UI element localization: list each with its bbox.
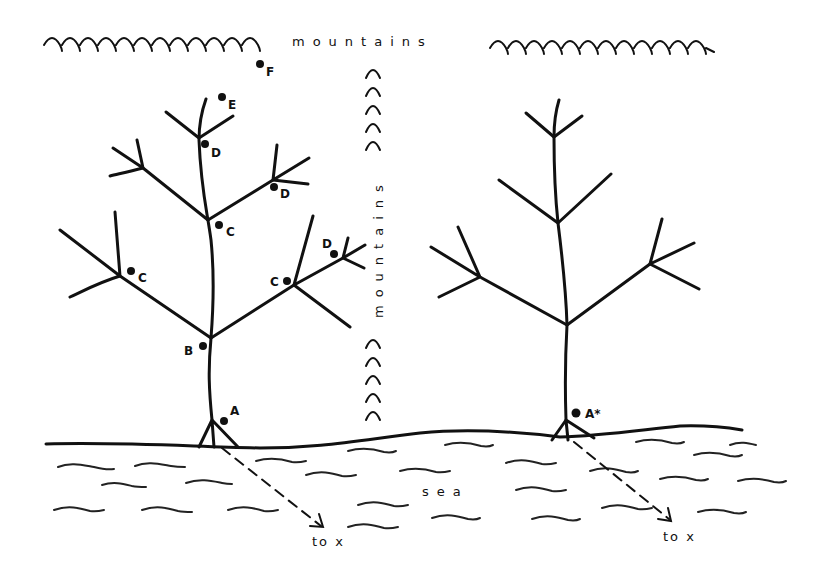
to-x-right-label: to x <box>663 529 696 544</box>
coastline <box>46 426 742 448</box>
label-e: E <box>228 98 236 112</box>
right-arrow-to-x <box>574 442 671 521</box>
point-a <box>220 417 228 425</box>
to-x-left-label: to x <box>312 534 345 549</box>
mountain-range-top-left <box>44 38 260 51</box>
point-c-left <box>127 267 135 275</box>
point-d-mid <box>270 183 278 191</box>
left-arrow-to-x <box>222 448 323 527</box>
mountain-range-top-right <box>490 41 714 54</box>
sea-waves <box>54 440 786 529</box>
point-c-right <box>283 277 291 285</box>
point-b <box>199 342 207 350</box>
label-d-top: D <box>211 146 221 160</box>
mountain-range-vertical-lower <box>366 340 380 420</box>
label-c-middle: C <box>226 225 235 239</box>
label-b: B <box>184 344 193 358</box>
mountains-top-label: mountains <box>292 34 433 49</box>
point-c-middle <box>215 221 223 229</box>
label-c-right: C <box>270 275 279 289</box>
label-c-left: C <box>138 271 147 285</box>
label-a-star: A* <box>585 407 601 421</box>
label-d-mid: D <box>280 187 290 201</box>
label-a: A <box>230 404 240 418</box>
point-a-star <box>572 409 581 418</box>
point-e <box>218 93 226 101</box>
point-d-right <box>330 250 338 258</box>
sea-label: sea <box>422 484 469 499</box>
label-d-right: D <box>322 237 332 251</box>
right-tree <box>431 100 699 440</box>
point-f <box>256 60 264 68</box>
point-d-top <box>201 140 209 148</box>
label-f: F <box>266 65 274 79</box>
diagram-canvas: mountains mountains A <box>0 0 820 579</box>
mountains-vertical-label: mountains <box>371 177 386 318</box>
mountain-range-vertical-upper <box>366 70 380 150</box>
